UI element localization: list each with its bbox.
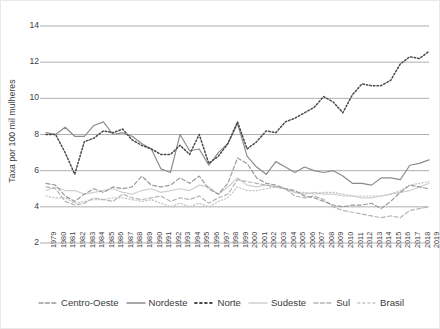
series-line-norte bbox=[46, 51, 429, 174]
legend-swatch-dotted-icon bbox=[194, 299, 214, 307]
series-line-centro-oeste bbox=[46, 158, 429, 209]
legend-item-sudeste[interactable]: Sudeste bbox=[248, 297, 306, 308]
legend-label: Norte bbox=[217, 297, 240, 308]
legend-swatch-solid-icon bbox=[248, 299, 268, 307]
plot-area bbox=[1, 1, 440, 329]
legend-item-nordeste[interactable]: Nordeste bbox=[126, 297, 188, 308]
legend-label: Nordeste bbox=[149, 297, 188, 308]
legend-item-norte[interactable]: Norte bbox=[194, 297, 240, 308]
line-chart: Taxa por 100 mil mulheres 2468101214 197… bbox=[0, 0, 440, 329]
chart-legend: Centro-OesteNordesteNorteSudesteSulBrasi… bbox=[1, 297, 440, 308]
legend-item-sul[interactable]: Sul bbox=[313, 297, 350, 308]
legend-label: Sul bbox=[336, 297, 350, 308]
legend-swatch-solid-icon bbox=[126, 299, 146, 307]
legend-item-centro-oeste[interactable]: Centro-Oeste bbox=[38, 297, 119, 308]
legend-swatch-dashed-light-icon bbox=[313, 299, 333, 307]
legend-item-brasil[interactable]: Brasil bbox=[357, 297, 404, 308]
legend-swatch-dashed-icon bbox=[38, 299, 58, 307]
legend-label: Brasil bbox=[380, 297, 404, 308]
legend-label: Centro-Oeste bbox=[61, 297, 119, 308]
legend-label: Sudeste bbox=[271, 297, 306, 308]
legend-swatch-dotted-light-icon bbox=[357, 299, 377, 307]
